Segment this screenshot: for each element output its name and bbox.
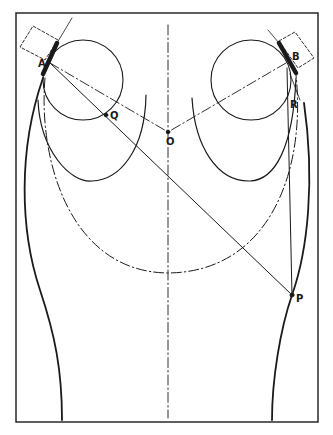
geometric-diagram: A B Q O R P (0, 0, 333, 435)
label-q: Q (110, 110, 119, 121)
large-dashdot-arc (44, 75, 298, 273)
left-outer-contour (25, 78, 62, 420)
label-b: B (292, 51, 300, 62)
label-a: A (38, 58, 46, 69)
point-p (290, 293, 294, 297)
label-p: P (296, 293, 303, 304)
line-b-o (168, 63, 286, 132)
label-r: R (290, 99, 298, 110)
left-circle (43, 40, 123, 120)
line-a-p (50, 63, 292, 295)
label-o: O (166, 136, 175, 147)
line-a-o (50, 63, 168, 132)
right-outer-contour (272, 103, 309, 420)
right-inner-curve (192, 78, 296, 181)
point-o (166, 130, 170, 134)
point-q (104, 113, 108, 117)
transducer-b (268, 30, 314, 73)
right-circle (211, 40, 291, 120)
